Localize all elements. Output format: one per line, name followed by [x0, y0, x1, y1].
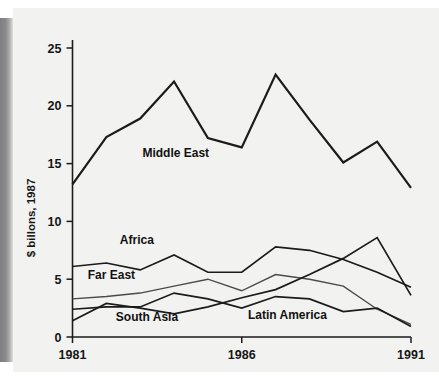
y-tick-label: 20: [48, 99, 62, 113]
line-chart: 0510152025 198119861991 $ billons, 1987 …: [0, 0, 439, 380]
y-tick-label: 5: [55, 273, 62, 287]
x-axis-ticks: [73, 337, 412, 343]
series-label-middle-east: Middle East: [142, 146, 209, 160]
y-tick-labels: 0510152025: [48, 42, 62, 345]
x-tick-label: 1986: [228, 348, 256, 362]
axes: [73, 40, 412, 337]
data-series-group: [73, 75, 412, 327]
y-axis-title: $ billons, 1987: [25, 179, 37, 258]
series-label-latin-america: Latin America: [248, 308, 327, 322]
series-label-far-east: Far East: [88, 268, 135, 282]
y-axis-title-text: $ billons, 1987: [25, 179, 37, 258]
axis-lines: [73, 40, 412, 337]
y-tick-label: 10: [48, 215, 62, 229]
x-tick-labels: 198119861991: [59, 348, 425, 362]
y-tick-label: 15: [48, 157, 62, 171]
y-axis-ticks: [67, 48, 73, 337]
series-line-middle-east: [73, 75, 412, 188]
y-tick-label: 25: [48, 42, 62, 56]
series-label-africa: Africa: [120, 233, 154, 247]
figure-canvas: 0510152025 198119861991 $ billons, 1987 …: [0, 0, 439, 380]
chart-area: 0510152025 198119861991 $ billons, 1987 …: [0, 0, 439, 380]
x-tick-label: 1991: [397, 348, 425, 362]
x-tick-label: 1981: [59, 348, 87, 362]
y-tick-label: 0: [55, 331, 62, 345]
series-label-south-asia: South Asia: [116, 310, 179, 324]
